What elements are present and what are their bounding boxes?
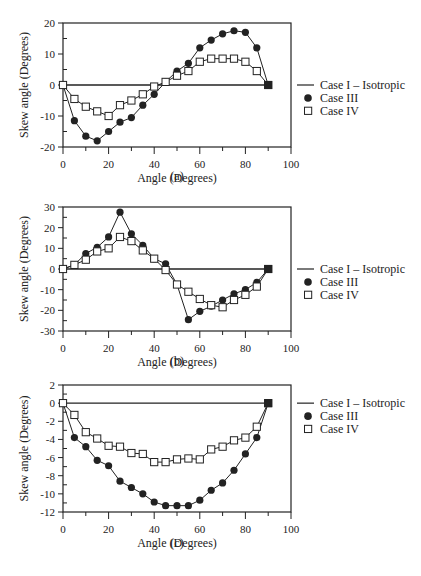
open-square-marker [82, 429, 89, 436]
open-square-marker [173, 281, 180, 288]
legend-item-case4: Case IV [305, 288, 360, 302]
y-tick-label: -12 [40, 506, 55, 518]
y-tick-label: -2 [46, 415, 55, 427]
filled-circle-marker [253, 434, 260, 441]
open-square-marker [219, 443, 226, 450]
filled-circle-marker [219, 30, 226, 37]
open-square-marker [59, 265, 66, 272]
legend-item-case3: Case III [304, 409, 358, 423]
legend-circle-icon [304, 94, 312, 102]
x-tick-label: 80 [240, 523, 252, 535]
x-tick-label: 60 [194, 342, 206, 354]
endpoint-marker [264, 81, 272, 89]
open-square-marker [94, 108, 101, 115]
open-square-marker [185, 455, 192, 462]
y-tick-label: -10 [40, 284, 55, 296]
y-tick-label: -10 [40, 488, 55, 500]
filled-circle-marker [151, 498, 158, 505]
y-tick-label: -6 [46, 452, 56, 464]
open-square-marker [151, 83, 158, 90]
x-tick-label: 40 [149, 158, 161, 170]
x-tick-label: 100 [283, 342, 300, 354]
series-case3 [59, 209, 271, 324]
legend-label: Case III [320, 275, 358, 289]
legend-label: Case III [320, 409, 358, 423]
open-square-marker [196, 295, 203, 302]
filled-circle-marker [242, 29, 249, 36]
filled-circle-marker [82, 133, 89, 140]
x-tick-label: 20 [103, 342, 115, 354]
x-tick-label: 0 [60, 342, 66, 354]
legend-label: Case I – Isotropic [320, 78, 405, 92]
legend-item-case1: Case I – Isotropic [297, 396, 405, 410]
open-square-marker [128, 97, 135, 104]
legend: Case I – IsotropicCase IIICase IV [297, 78, 405, 118]
open-square-marker [128, 238, 135, 245]
open-square-marker [59, 400, 66, 407]
legend-square-icon [305, 425, 312, 432]
x-tick-label: 80 [240, 158, 252, 170]
open-square-marker [82, 256, 89, 263]
legend-item-case1: Case I – Isotropic [297, 78, 405, 92]
filled-circle-marker [105, 462, 112, 469]
filled-circle-marker [196, 497, 203, 504]
legend-item-case4: Case IV [305, 104, 360, 118]
open-square-marker [162, 266, 169, 273]
open-square-marker [242, 434, 249, 441]
filled-circle-marker [208, 36, 215, 43]
open-square-marker [185, 288, 192, 295]
open-square-marker [139, 450, 146, 457]
x-tick-label: 60 [194, 523, 206, 535]
open-square-marker [116, 233, 123, 240]
y-tick-label: -10 [40, 110, 55, 122]
y-tick-label: 0 [50, 79, 56, 91]
open-square-marker [230, 437, 237, 444]
legend-label: Case I – Isotropic [320, 262, 405, 276]
open-square-marker [116, 102, 123, 109]
open-square-marker [71, 261, 78, 268]
y-tick-label: -20 [40, 304, 55, 316]
y-tick-label: 2 [50, 379, 56, 391]
open-square-marker [208, 55, 215, 62]
x-tick-label: 40 [149, 342, 161, 354]
filled-circle-marker [162, 502, 169, 509]
endpoint-marker [264, 399, 272, 407]
filled-circle-marker [94, 457, 101, 464]
filled-circle-marker [116, 119, 123, 126]
y-tick-label: -20 [40, 141, 55, 153]
x-tick-label: 20 [103, 158, 115, 170]
x-tick-label: 20 [103, 523, 115, 535]
chart-panel-a: 20100-10-20020406080100Angle (Degrees)Sk… [17, 17, 405, 185]
open-square-marker [59, 81, 66, 88]
series-case3 [59, 400, 271, 510]
legend-square-icon [305, 291, 312, 298]
filled-circle-marker [105, 128, 112, 135]
series-line [63, 403, 268, 462]
y-tick-label: 0 [50, 397, 56, 409]
filled-circle-marker [173, 502, 180, 509]
legend-item-case3: Case III [304, 275, 358, 289]
endpoint-marker [264, 265, 272, 273]
open-square-marker [82, 103, 89, 110]
filled-circle-marker [94, 137, 101, 144]
filled-circle-marker [105, 233, 112, 240]
panel-caption: (c) [170, 536, 183, 550]
filled-circle-marker [230, 467, 237, 474]
x-tick-label: 60 [194, 158, 206, 170]
filled-circle-marker [128, 230, 135, 237]
filled-circle-marker [219, 479, 226, 486]
panel-caption: (a) [170, 169, 183, 183]
open-square-marker [208, 446, 215, 453]
legend-label: Case I – Isotropic [320, 396, 405, 410]
open-square-marker [94, 435, 101, 442]
open-square-marker [196, 58, 203, 65]
open-square-marker [162, 459, 169, 466]
open-square-marker [253, 67, 260, 74]
y-tick-label: 30 [44, 201, 56, 213]
open-square-marker [253, 423, 260, 430]
x-tick-label: 40 [149, 523, 161, 535]
filled-circle-marker [185, 502, 192, 509]
y-tick-label: -8 [46, 470, 56, 482]
open-square-marker [185, 67, 192, 74]
open-square-marker [242, 58, 249, 65]
